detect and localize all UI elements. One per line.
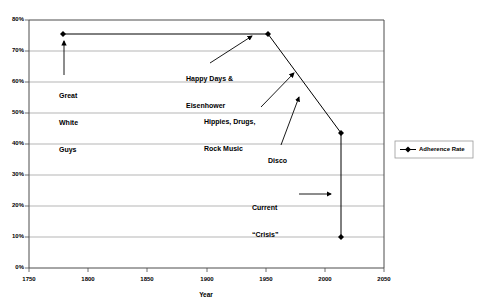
- y-tick-label-80: 80%: [0, 16, 24, 24]
- annotation-line: Disco: [268, 157, 287, 166]
- y-tick-label-0: 0%: [0, 264, 24, 272]
- annotation-line: White: [59, 119, 78, 128]
- annotation-line: Guys: [59, 146, 78, 155]
- annotation-hippies-drugs-rock-music: Hippies, Drugs, Rock Music: [204, 100, 255, 172]
- y-tick-label-20: 20%: [0, 202, 24, 210]
- y-tick-label-10: 10%: [0, 233, 24, 241]
- annotation-current-crisis: Current “Crisis”: [252, 186, 278, 258]
- x-axis-ticks: [29, 268, 384, 272]
- annotation-line: Hippies, Drugs,: [204, 118, 255, 127]
- annotation-line: “Crisis”: [252, 231, 278, 240]
- x-tick-label-1850: 1850: [127, 276, 167, 284]
- annotation-line: Rock Music: [204, 145, 255, 154]
- y-axis-ticks: [25, 20, 29, 268]
- annotation-great-white-guys: Great White Guys: [59, 74, 78, 172]
- x-tick-label-1750: 1750: [9, 276, 49, 284]
- chart-container: 0% 10% 20% 30% 40% 50% 60% 70% 80% 1750 …: [0, 0, 478, 308]
- y-tick-label-70: 70%: [0, 47, 24, 55]
- x-tick-label-2050: 2050: [364, 276, 404, 284]
- y-tick-label-60: 60%: [0, 78, 24, 86]
- x-tick-label-1800: 1800: [68, 276, 108, 284]
- annotation-line: Great: [59, 92, 78, 101]
- legend-entry-label: Adherence Rate: [419, 146, 465, 154]
- x-tick-label-2000: 2000: [305, 276, 345, 284]
- y-tick-label-30: 30%: [0, 171, 24, 179]
- x-tick-label-1950: 1950: [246, 276, 286, 284]
- x-tick-label-1900: 1900: [187, 276, 227, 284]
- annotation-line: Current: [252, 204, 278, 213]
- annotation-disco: Disco: [268, 139, 287, 184]
- y-tick-label-50: 50%: [0, 109, 24, 117]
- x-axis-title: Year: [176, 291, 236, 299]
- annotation-line: Happy Days &: [186, 75, 233, 84]
- y-tick-label-40: 40%: [0, 140, 24, 148]
